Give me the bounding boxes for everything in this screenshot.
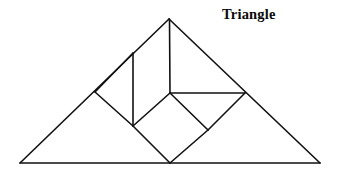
- outer-left-edge: [20, 19, 169, 163]
- right-diagonal-line: [208, 93, 245, 130]
- outer-right-edge: [169, 19, 320, 163]
- figure-title: Triangle: [222, 7, 276, 23]
- diamond-upper-right-edge: [170, 93, 208, 130]
- apex-vertical-line: [170, 19, 171, 93]
- inner-dissection-lines: [95, 19, 245, 163]
- diamond-upper-left-edge: [133, 93, 170, 126]
- tangram-triangle-diagram: [0, 0, 338, 173]
- diamond-lower-right-edge: [170, 130, 208, 163]
- left-diagonal-lower-line: [95, 92, 133, 126]
- geometric-figure-canvas: Triangle: [0, 0, 338, 173]
- left-diagonal-upper-line: [95, 53, 133, 92]
- diamond-lower-left-edge: [133, 126, 170, 163]
